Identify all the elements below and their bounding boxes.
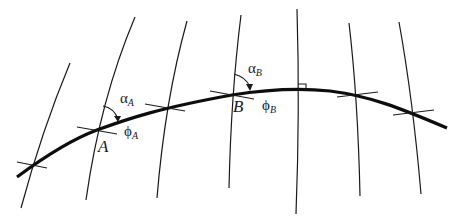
intersection-ticks [17, 91, 434, 168]
alpha-A-arc [103, 106, 121, 122]
label-phi-B: ϕB [262, 97, 276, 115]
label-alpha-A: αA [120, 90, 135, 108]
arrowhead-icon [246, 84, 253, 91]
geodesic-diagram: A B αA ϕA αB ϕB [0, 0, 461, 222]
geodesic-curve [17, 89, 447, 177]
label-alpha-B: αB [248, 60, 262, 78]
alpha-B-arc [234, 74, 253, 91]
tick-A [77, 127, 117, 134]
label-phi-A: ϕA [124, 123, 139, 141]
label-point-B: B [233, 97, 244, 116]
meridian-5 [296, 9, 298, 214]
meridian-7 [399, 22, 421, 194]
label-point-A: A [97, 137, 109, 156]
meridians [21, 9, 421, 214]
meridian-1 [21, 63, 70, 208]
meridian-6 [349, 23, 360, 196]
